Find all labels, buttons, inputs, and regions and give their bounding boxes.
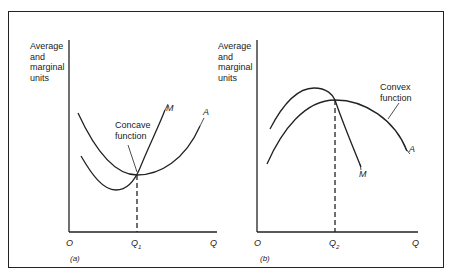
- panel-a-a-label: A: [203, 107, 209, 118]
- panel-b-q2-label: Q2: [329, 238, 339, 252]
- panel-b-m-label: M: [359, 169, 367, 180]
- panel-b-annotation-pointer: [388, 103, 399, 119]
- panel-a-origin-label: O: [66, 238, 73, 249]
- panel-b-marginal-curve: [270, 88, 361, 167]
- panel-b-annotation: Convex function: [380, 82, 412, 103]
- panel-a-m-label: M: [166, 103, 174, 114]
- panel-a-caption: (a): [70, 254, 80, 265]
- panel-a-a-label-pointer: [200, 118, 204, 126]
- panel-b-a-label: A: [409, 144, 415, 155]
- panel-b-q-label: Q: [412, 238, 419, 249]
- panel-a-y-axis-label: Average and marginal units: [30, 41, 90, 83]
- panel-a-q-label: Q: [210, 238, 217, 249]
- panel-b-origin-label: O: [254, 238, 261, 249]
- panel-a-annotation: Concave function: [115, 120, 151, 141]
- panel-a-q1-label: Q1: [131, 238, 141, 252]
- panel-b-average-curve: [267, 100, 407, 164]
- panel-b-y-axis-label: Average and marginal units: [218, 41, 278, 83]
- panel-a-annotation-pointer: [128, 145, 137, 172]
- panel-b-caption: (b): [260, 254, 270, 265]
